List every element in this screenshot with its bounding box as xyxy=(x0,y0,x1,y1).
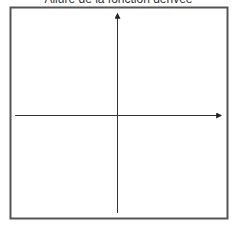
frame xyxy=(11,8,228,219)
axes-diagram xyxy=(0,0,237,226)
